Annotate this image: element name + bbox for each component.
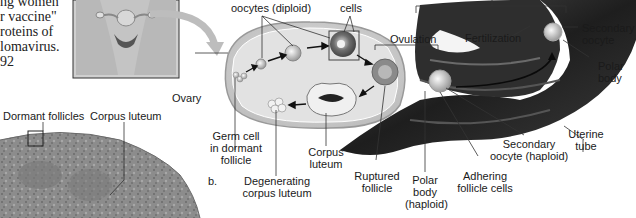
label-uterine-tube: Uterine tube (566, 128, 606, 152)
label-corpus-luteum: Corpus luteum (304, 146, 348, 170)
label-polar-body-right: Polar body (598, 60, 624, 84)
label-germ-cell: Germ cell in dormant follicle (206, 130, 266, 166)
label-secondary-oocyte-top: Secondary oocyte (582, 22, 635, 46)
label-degenerating-corpus-luteum: Degenerating corpus luteum (242, 175, 312, 199)
label-cells: cells (340, 2, 362, 14)
panel-b-label: b. (208, 175, 217, 187)
label-ovulation: Ovulation (390, 33, 436, 45)
label-ovary: Ovary (172, 92, 201, 104)
label-polar-body-haploid: Polar body (haploid) (405, 174, 445, 210)
ovary-micrograph (0, 131, 200, 218)
label-fertilization: Fertilization (465, 32, 521, 44)
figure-graphics (0, 0, 636, 218)
label-dormant-follicles: Dormant follicles (3, 110, 84, 122)
label-oocytes-diploid: oocytes (diploid) (231, 2, 311, 14)
label-adhering-follicle-cells: Adhering follicle cells (454, 170, 516, 194)
ovary-illustration (225, 22, 405, 128)
label-ruptured-follicle: Ruptured follicle (352, 170, 402, 194)
label-micrograph-corpus-luteum: Corpus luteum (90, 110, 162, 122)
label-secondary-oocyte-haploid: Secondary oocyte (haploid) (490, 138, 568, 162)
